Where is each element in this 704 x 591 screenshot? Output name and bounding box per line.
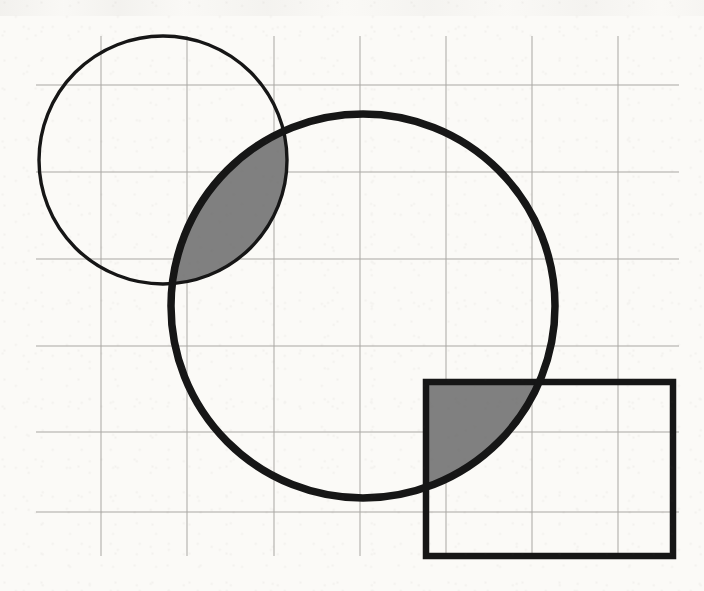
geometry-figure xyxy=(0,0,704,591)
figure-canvas xyxy=(0,0,704,591)
